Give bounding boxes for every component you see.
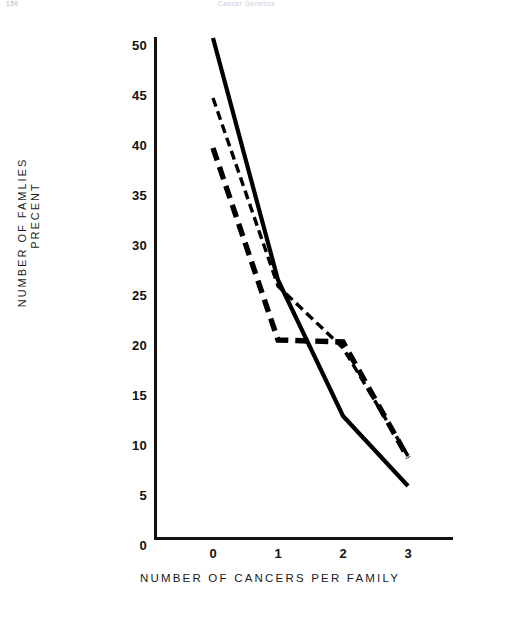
figure-page: 150 Cancer Genetics 05101520253035404550… [0, 0, 525, 619]
x-axis-title: NUMBER OF CANCERS PER FAMILY [100, 572, 440, 584]
chart-plot-area: 05101520253035404550 0123 NUMBER OF FAML… [0, 0, 525, 619]
chart-series-solid-curve [213, 38, 408, 486]
y-axis-title-line2: PRECENT [29, 143, 41, 323]
chart-curves [0, 0, 525, 619]
y-axis-title: NUMBER OF FAMLIES PRECENT [16, 143, 41, 323]
y-axis-title-line1: NUMBER OF FAMLIES [16, 143, 28, 323]
chart-series-bold-dashed-curve [213, 148, 408, 458]
